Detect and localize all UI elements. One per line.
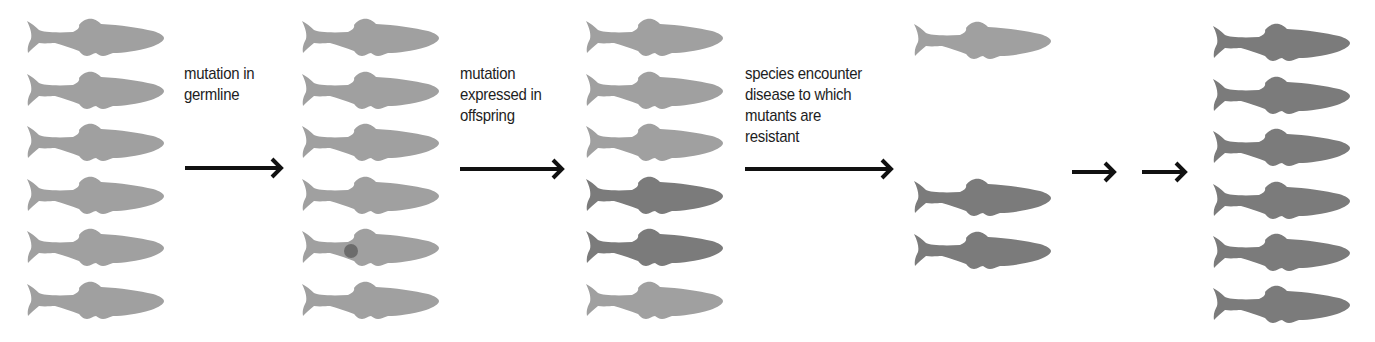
mutation-dot-icon	[344, 244, 358, 258]
mutant-fish-icon	[1211, 22, 1351, 62]
label-species-encounter-disease: species encounter disease to which mutan…	[745, 63, 862, 147]
arrow-icon	[185, 158, 283, 178]
arrow-icon	[745, 159, 893, 179]
mutant-fish-icon	[912, 177, 1052, 217]
fish-icon	[300, 17, 440, 57]
fish-icon	[300, 175, 440, 215]
mutant-fish-icon	[584, 175, 724, 215]
label-mutation-in-germline: mutation in germline	[184, 63, 254, 105]
fish-icon	[584, 280, 724, 320]
mutant-fish-icon	[1211, 127, 1351, 167]
fish-icon	[25, 122, 165, 162]
fish-icon	[912, 20, 1052, 60]
arrow-icon	[460, 159, 564, 179]
fish-icon	[25, 227, 165, 267]
mutant-fish-icon	[1211, 75, 1351, 115]
fish-icon	[25, 175, 165, 215]
fish-icon	[300, 70, 440, 110]
fish-icon	[25, 280, 165, 320]
mutant-fish-icon	[1211, 180, 1351, 220]
fish-icon	[584, 17, 724, 57]
fish-icon	[300, 227, 440, 267]
arrow-icon	[1072, 162, 1116, 182]
label-mutation-expressed-in-offspring: mutation expressed in offspring	[460, 63, 542, 126]
fish-icon	[584, 122, 724, 162]
fish-icon	[25, 70, 165, 110]
fish-icon	[25, 17, 165, 57]
arrow-icon	[1142, 162, 1187, 182]
mutant-fish-icon	[584, 227, 724, 267]
fish-icon	[300, 122, 440, 162]
mutant-fish-icon	[1211, 232, 1351, 272]
mutant-fish-icon	[912, 230, 1052, 270]
mutant-fish-icon	[1211, 284, 1351, 324]
fish-icon	[300, 280, 440, 320]
fish-icon	[584, 70, 724, 110]
